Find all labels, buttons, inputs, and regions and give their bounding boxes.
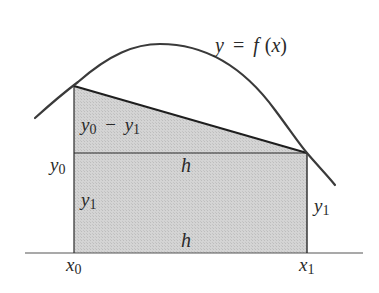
label-h-top: h — [181, 154, 191, 176]
label-x1: x1 — [298, 254, 314, 277]
label-y1-right: y1 — [312, 195, 329, 218]
label-y0-minus-y1: y0 − y1 — [79, 114, 140, 138]
label-h-bottom: h — [181, 229, 191, 251]
curve-label: y = f (x) — [213, 34, 287, 57]
label-y0-left: y0 — [48, 154, 65, 177]
trapezoid-diagram: y = f (x) y0 − y1 y0 y1 y1 h h x0 x1 — [0, 0, 379, 293]
label-x0: x0 — [65, 254, 81, 277]
